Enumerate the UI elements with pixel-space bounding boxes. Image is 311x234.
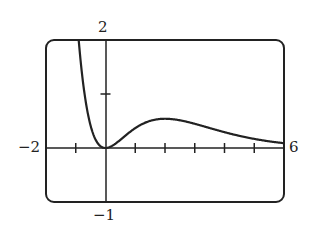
x-min-label: −2: [18, 138, 40, 156]
y-min-label: −1: [93, 206, 115, 224]
x-max-label: 6: [289, 138, 299, 156]
graph-canvas: [0, 0, 311, 234]
axis-ticks: [76, 94, 255, 153]
y-max-label: 2: [98, 18, 108, 36]
